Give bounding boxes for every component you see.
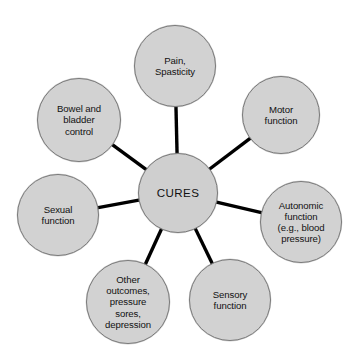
node-label-other-outcomes: Other outcomes, pressure sores, depressi… (102, 274, 154, 330)
spoke-autonomic-function (215, 202, 262, 213)
spoke-sexual-function (97, 200, 140, 208)
node-pain-spasticity[interactable]: Pain, Spasticity (134, 25, 216, 107)
node-other-outcomes[interactable]: Other outcomes, pressure sores, depressi… (86, 260, 170, 344)
node-autonomic-function[interactable]: Autonomic function (e.g., blood pressure… (260, 181, 342, 263)
cures-diagram: Pain, Spasticity Motor function Autonomi… (0, 0, 356, 359)
node-bowel-bladder-control[interactable]: Bowel and bladder control (37, 78, 121, 162)
node-label-pain-spasticity: Pain, Spasticity (152, 55, 198, 77)
node-label-sexual-function: Sexual function (39, 204, 78, 226)
node-label-motor-function: Motor function (262, 104, 301, 126)
node-motor-function[interactable]: Motor function (242, 76, 320, 154)
node-label-autonomic-function: Autonomic function (e.g., blood pressure… (275, 200, 328, 245)
spoke-bowel-bladder-control (112, 144, 147, 170)
node-label-sensory-function: Sensory function (210, 289, 251, 311)
spoke-motor-function (209, 138, 251, 170)
spoke-sensory-function (195, 228, 213, 265)
node-sexual-function[interactable]: Sexual function (17, 174, 99, 256)
spoke-other-outcomes (145, 228, 162, 265)
node-cures-center[interactable]: CURES (138, 153, 218, 233)
spoke-pain-spasticity (176, 105, 177, 154)
node-label-cures: CURES (154, 186, 203, 199)
node-sensory-function[interactable]: Sensory function (189, 259, 271, 341)
node-label-bowel-bladder-control: Bowel and bladder control (54, 103, 104, 136)
